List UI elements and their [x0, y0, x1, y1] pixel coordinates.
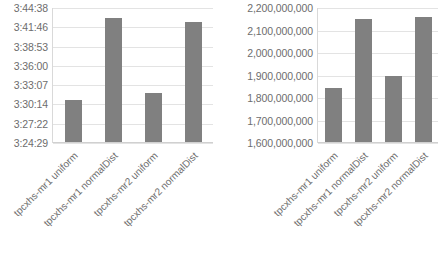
bar-slot	[408, 8, 438, 142]
chart-throughput: 2,200,000,0002,100,000,0002,000,000,0001…	[218, 0, 441, 254]
chart-duration: 3:44:383:41:463:38:533:36:003:33:073:30:…	[0, 0, 218, 254]
y-axis-tick-label: 3:41:46	[14, 21, 48, 33]
axis-baseline	[318, 142, 438, 143]
figure: 3:44:383:41:463:38:533:36:003:33:073:30:…	[0, 0, 441, 254]
bar[interactable]	[185, 22, 202, 142]
bar-slot	[348, 8, 378, 142]
y-axis-tick-label: 3:24:29	[14, 137, 48, 149]
bar-slot	[133, 8, 173, 142]
plot-area-duration	[52, 8, 213, 143]
y-axis-labels-duration: 3:44:383:41:463:38:533:36:003:33:073:30:…	[0, 0, 48, 152]
bar-slot	[378, 8, 408, 142]
x-axis-labels-throughput: tpcxhs-mr1 uniformtpcxhs-mr1 normalDistt…	[317, 144, 437, 252]
bar[interactable]	[65, 100, 82, 142]
axis-baseline	[53, 142, 213, 143]
x-axis-labels-duration: tpcxhs-mr1 uniformtpcxhs-mr1 normalDistt…	[52, 144, 212, 252]
bar[interactable]	[385, 76, 402, 142]
y-axis-labels-throughput: 2,200,000,0002,100,000,0002,000,000,0001…	[218, 0, 313, 152]
y-axis-tick-label: 3:33:07	[14, 79, 48, 91]
bars-throughput	[318, 8, 438, 142]
bar[interactable]	[415, 17, 432, 142]
y-axis-tick-label: 2,200,000,000	[247, 2, 313, 14]
plot-area-throughput	[317, 8, 438, 143]
y-axis-tick-label: 3:36:00	[14, 60, 48, 72]
bar-slot	[318, 8, 348, 142]
bar[interactable]	[325, 88, 342, 142]
bar[interactable]	[355, 19, 372, 142]
bar-slot	[173, 8, 213, 142]
bar[interactable]	[145, 93, 162, 142]
bar[interactable]	[105, 18, 122, 142]
bars-duration	[53, 8, 213, 142]
y-axis-tick-label: 1,700,000,000	[247, 115, 313, 127]
y-axis-tick-label: 2,100,000,000	[247, 25, 313, 37]
y-axis-tick-label: 1,600,000,000	[247, 137, 313, 149]
y-axis-tick-label: 2,000,000,000	[247, 47, 313, 59]
bar-slot	[93, 8, 133, 142]
y-axis-tick-label: 3:44:38	[14, 2, 48, 14]
y-axis-tick-label: 1,800,000,000	[247, 92, 313, 104]
y-axis-tick-label: 3:30:14	[14, 98, 48, 110]
y-axis-tick-label: 3:27:22	[14, 118, 48, 130]
bar-slot	[53, 8, 93, 142]
y-axis-tick-label: 1,900,000,000	[247, 70, 313, 82]
y-axis-tick-label: 3:38:53	[14, 41, 48, 53]
